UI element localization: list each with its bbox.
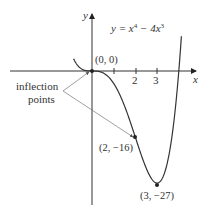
annotation-label-line2: points [28, 93, 55, 105]
function-curve [74, 36, 182, 183]
point-inflection-2 [133, 135, 137, 139]
point-minimum [155, 183, 159, 187]
point-label-origin: (0, 0) [95, 54, 118, 66]
point-label-inflection: (2, −16) [99, 142, 133, 154]
y-axis-label: y [82, 9, 88, 21]
point-origin [90, 69, 94, 73]
tick-label-3: 3 [153, 74, 159, 86]
x-axis-label: x [192, 73, 198, 85]
tick-label-2: 2 [132, 74, 138, 86]
point-label-minimum: (3, −27) [140, 190, 174, 202]
equation-label: y = x4 − 4x3 [110, 22, 165, 34]
annotation-line-2 [63, 91, 133, 137]
annotation-line-1 [63, 72, 89, 91]
graph: x y 2 3 y = x4 − 4x3 inflection points (… [0, 0, 205, 215]
annotation-label-line1: inflection [16, 80, 59, 92]
